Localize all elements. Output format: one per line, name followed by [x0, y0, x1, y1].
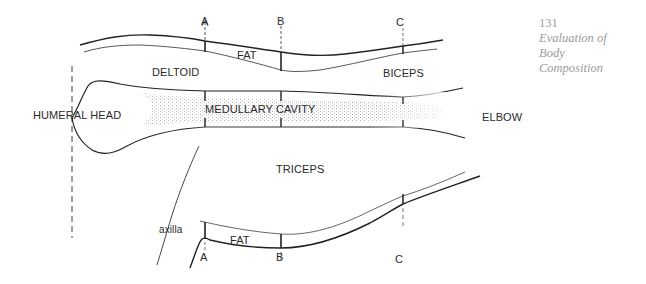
- elbow-label: ELBOW: [482, 112, 522, 123]
- section-a-bottom-label: A: [200, 252, 207, 263]
- running-title-line-3: Composition: [539, 61, 607, 76]
- humeral-head-label: HUMERAL HEAD: [33, 110, 121, 121]
- fat-top-label: FAT: [237, 50, 257, 61]
- running-title-line-2: Body: [539, 46, 607, 61]
- fat-bottom-label: FAT: [230, 235, 250, 246]
- margin-running-header: 131 Evaluation of Body Composition: [539, 16, 607, 76]
- medullary-cavity-label: MEDULLARY CAVITY: [205, 104, 315, 115]
- page-number: 131: [539, 16, 558, 30]
- section-c-bottom-label: C: [395, 254, 403, 265]
- biceps-label: BICEPS: [383, 68, 424, 79]
- section-b-bottom-label: B: [276, 252, 283, 263]
- deltoid-label: DELTOID: [152, 67, 199, 78]
- running-title-line-1: Evaluation of: [539, 31, 607, 46]
- section-b-top-label: B: [277, 16, 284, 27]
- bottom-skin-line: [190, 176, 480, 268]
- triceps-label: TRICEPS: [276, 164, 324, 175]
- bottom-fat-muscle-boundary: [200, 172, 465, 234]
- axilla-line: [157, 146, 199, 265]
- section-c-top-label: C: [396, 17, 404, 28]
- axilla-label: axilla: [159, 225, 182, 235]
- section-a-top-label: A: [201, 16, 208, 27]
